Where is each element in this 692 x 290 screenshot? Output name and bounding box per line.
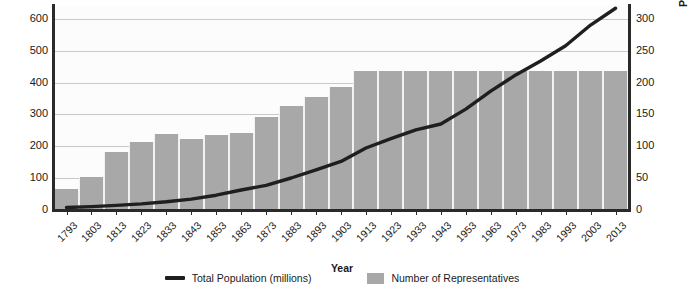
x-tickmark	[266, 210, 267, 215]
x-tickmark	[166, 210, 167, 215]
x-tickmark	[116, 210, 117, 215]
x-tickmark	[466, 210, 467, 215]
x-tickmark	[316, 210, 317, 215]
bar-swatch-icon	[367, 273, 384, 284]
line-series	[54, 6, 628, 210]
legend-item-population: Total Population (millions)	[165, 272, 312, 284]
y-tick-left: 500	[12, 44, 48, 56]
y-axis-left-line	[52, 4, 55, 212]
y-tick-right: 100	[636, 139, 676, 151]
y-tick-left: 200	[12, 139, 48, 151]
x-tickmark	[191, 210, 192, 215]
x-tickmark	[541, 210, 542, 215]
y-tick-right: 250	[636, 44, 676, 56]
x-tickmark	[91, 210, 92, 215]
x-tickmark	[441, 210, 442, 215]
y-tick-right: 150	[636, 107, 676, 119]
x-tickmark	[516, 210, 517, 215]
y-tick-right: 300	[636, 12, 676, 24]
plot-area	[54, 6, 628, 210]
x-tickmark	[141, 210, 142, 215]
x-tickmark	[341, 210, 342, 215]
y-tick-left: 600	[12, 12, 48, 24]
x-tickmark	[566, 210, 567, 215]
x-tickmark	[366, 210, 367, 215]
x-tickmark	[591, 210, 592, 215]
y-axis-right-line	[628, 4, 631, 212]
x-tickmark	[391, 210, 392, 215]
legend-label-population: Total Population (millions)	[192, 272, 312, 284]
x-tickmark	[67, 210, 68, 215]
legend-item-representatives: Number of Representatives	[367, 272, 519, 284]
x-tickmark	[491, 210, 492, 215]
legend-label-representatives: Number of Representatives	[391, 272, 519, 284]
chart-legend: Total Population (millions) Number of Re…	[0, 272, 684, 284]
x-tickmark	[241, 210, 242, 215]
y-tick-right: 0	[636, 203, 676, 215]
x-tickmark	[216, 210, 217, 215]
y-tick-right: 50	[636, 171, 676, 183]
y-tick-left: 300	[12, 107, 48, 119]
line-swatch-icon	[165, 276, 185, 280]
y-tick-left: 0	[12, 203, 48, 215]
y-tick-left: 100	[12, 171, 48, 183]
x-tickmark	[291, 210, 292, 215]
y-tick-left: 400	[12, 76, 48, 88]
y-axis-right-title: Population (millions)	[677, 0, 692, 40]
y-tick-right: 200	[636, 76, 676, 88]
x-tickmark	[616, 210, 617, 215]
x-tickmark	[416, 210, 417, 215]
